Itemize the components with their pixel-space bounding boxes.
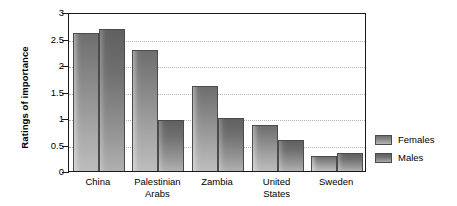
male-swatch-icon [375, 153, 392, 163]
y-tick-label: 1.5 [38, 88, 64, 98]
legend-label-females: Females [398, 135, 434, 145]
y-tick-label: 0.5 [38, 141, 64, 151]
bar-males [278, 140, 304, 171]
bars-layer [69, 14, 365, 171]
x-axis-label-line: States [237, 188, 317, 200]
y-tick-label: 3 [38, 8, 64, 18]
x-axis-label: Sweden [296, 176, 376, 188]
x-axis-category-labels: ChinaPalestinianArabsZambiaUnitedStatesS… [68, 176, 366, 206]
bar-chart: Ratings of importance 00.511.522.53 Chin… [0, 0, 457, 206]
y-tick-label: 1 [38, 114, 64, 124]
y-tick-mark [62, 172, 69, 173]
y-tick-label: 2 [38, 61, 64, 71]
plot-area [68, 13, 366, 172]
x-axis-label-line: Arabs [118, 188, 198, 200]
bar-females [132, 50, 158, 171]
y-tick-label: 2.5 [38, 35, 64, 45]
female-swatch-icon [375, 135, 392, 145]
bar-females [252, 125, 278, 171]
legend-item-females: Females [375, 131, 457, 149]
legend-item-males: Males [375, 149, 457, 167]
legend-label-males: Males [398, 153, 423, 163]
bar-females [311, 156, 337, 171]
y-axis-title: Ratings of importance [19, 18, 30, 178]
bar-females [73, 33, 99, 171]
x-axis-label-line: Sweden [296, 176, 376, 188]
bar-males [337, 153, 363, 171]
bar-males [218, 118, 244, 171]
bar-females [192, 86, 218, 171]
bar-males [99, 29, 125, 171]
chart-legend: Females Males [375, 131, 457, 167]
bar-males [158, 120, 184, 171]
